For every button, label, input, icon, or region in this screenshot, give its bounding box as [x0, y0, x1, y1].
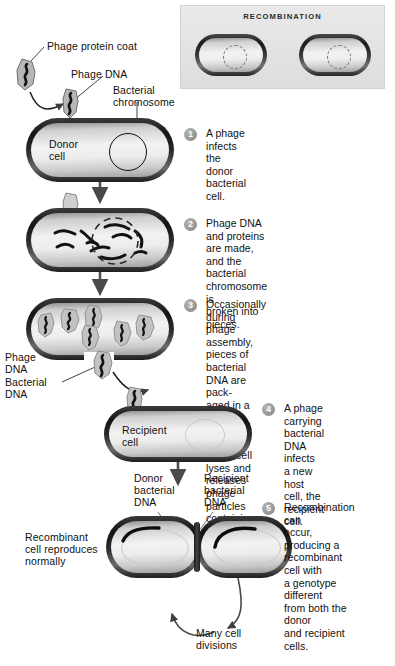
- phage-particle-free: [14, 58, 40, 92]
- label-recipient-cell-line1: Recipient: [122, 424, 167, 437]
- step-badge-2: 2: [184, 218, 197, 231]
- recombinant-cell-left: [106, 516, 202, 578]
- division-septum: [194, 522, 200, 572]
- phage-particle-attached-donor: [60, 88, 82, 122]
- recombination-inset-panel: RECOMBINATION: [180, 5, 385, 89]
- label-recombinant-line1: Recombinant: [25, 531, 88, 544]
- label-recipient-cell-line2: cell: [122, 436, 138, 449]
- label-phage-dna-side-line1: Phage: [5, 351, 36, 364]
- label-donor-bacterial-dna-line3: DNA: [134, 496, 156, 509]
- step-4-line-1: A phage carrying: [284, 402, 324, 427]
- cell-cytoplasm: [31, 303, 169, 355]
- cell-cytoplasm: [303, 38, 367, 72]
- label-recombinant-line3: normally: [25, 555, 65, 568]
- label-donor-cell-line1: Donor: [49, 138, 78, 151]
- label-bacterial-dna-side-line1: Bacterial: [5, 376, 47, 389]
- step-5-line-1: Recombination can: [284, 501, 355, 526]
- label-donor-cell-line2: cell: [49, 150, 65, 163]
- step-5-line-5: from both the donor: [284, 602, 355, 627]
- phage-progeny-group: [31, 303, 169, 355]
- recombination-inset-title: RECOMBINATION: [181, 12, 384, 21]
- donor-cell-step2: [26, 208, 174, 272]
- label-bacterial-dna-side-line2: DNA: [5, 388, 27, 401]
- recipient-chromosome-ring: [185, 419, 225, 451]
- label-many-cell-divisions-line2: divisions: [196, 639, 237, 652]
- label-bacterial-chromosome-line2: chromosome: [113, 96, 175, 109]
- label-recipient-bacterial-dna-line2: bacterial: [204, 484, 245, 497]
- step-1-line-1: A phage infects the: [206, 127, 246, 165]
- step-3-line-1: Occasionally during phage assembly,: [206, 298, 266, 348]
- step-5-line-3: recombinant cell with: [284, 551, 355, 576]
- step-1-line-2: donor bacterial cell.: [206, 165, 246, 203]
- step-badge-5: 5: [262, 502, 275, 515]
- step-2-line-1: Phage DNA and proteins are made,: [206, 217, 267, 255]
- step-badge-1: 1: [184, 128, 197, 141]
- label-recipient-bacterial-dna-line1: Recipient: [204, 472, 249, 485]
- inset-cell-after: [299, 34, 371, 76]
- phage-particle-released: [90, 349, 116, 381]
- label-bacterial-chromosome-line1: Bacterial: [113, 84, 155, 97]
- step-3-line-2: pieces of bacterial DNA are pack-: [206, 348, 266, 398]
- label-phage-dna-side-line2: DNA: [5, 363, 27, 376]
- recombinant-cell-right: [196, 516, 292, 578]
- step-5-line-4: a genotype different: [284, 577, 355, 602]
- label-phage-dna: Phage DNA: [71, 68, 127, 81]
- inset-cell-before: [195, 34, 267, 76]
- label-recipient-bacterial-dna-line3: DNA: [204, 496, 226, 509]
- label-many-cell-divisions-line1: Many cell: [196, 627, 241, 640]
- cell-cytoplasm: [201, 521, 287, 573]
- donor-dna-segment: [111, 521, 197, 573]
- recipient-dna-segment: [201, 521, 287, 573]
- cell-cytoplasm: [31, 213, 169, 267]
- chromosome-ring: [327, 45, 351, 69]
- label-donor-bacterial-dna-line2: bacterial: [134, 484, 175, 497]
- cell-cytoplasm: [111, 521, 197, 573]
- step-badge-3: 3: [184, 299, 197, 312]
- step-4-line-3: a new host cell, the: [284, 465, 324, 503]
- chromosome-ring: [223, 45, 247, 69]
- bacterial-chromosome-ring: [109, 133, 147, 171]
- label-recombinant-line2: cell reproduces: [25, 543, 98, 556]
- step-badge-4: 4: [262, 403, 275, 416]
- label-donor-bacterial-dna-line1: Donor: [134, 472, 163, 485]
- fragmented-chromosome: [31, 213, 169, 267]
- step-5-line-2: occur, producing a: [284, 526, 355, 551]
- label-phage-protein-coat: Phage protein coat: [47, 40, 137, 53]
- cell-cytoplasm: [199, 38, 263, 72]
- step-4-line-2: bacterial DNA infects: [284, 427, 324, 465]
- step-5-line-6: and recipient cells.: [284, 627, 355, 652]
